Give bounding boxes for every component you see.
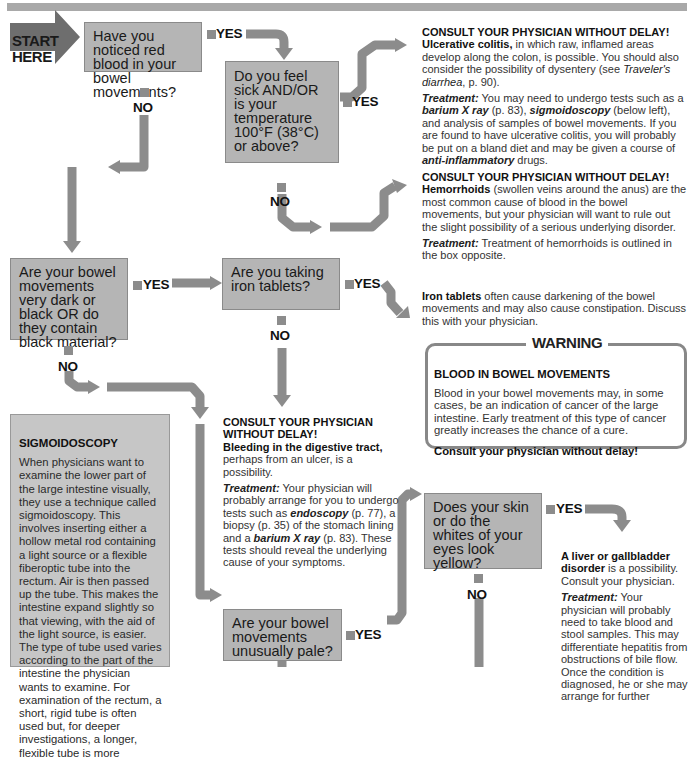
- outcome-heading: CONSULT YOUR PHYSICIAN WITHOUT DELAY!: [422, 171, 688, 183]
- condition-name: Ulcerative colitis,: [422, 38, 513, 50]
- start-here-label: START HERE: [12, 33, 58, 65]
- yes-marker-q5: [546, 505, 555, 514]
- treatment-label: Treatment:: [422, 237, 479, 249]
- treatment-label: Treatment:: [422, 92, 479, 104]
- arrowhead-q6-yes: [410, 487, 422, 501]
- outcome-liver-gallbladder: A liver or gallbladder disorder is a pos…: [561, 550, 689, 707]
- arrowhead-q3-yes: [210, 276, 222, 290]
- question-pale[interactable]: Are your bowel movements unusually pale?: [223, 609, 342, 661]
- treatment-text: (p. 83),: [489, 104, 530, 116]
- outcome-heading: CONSULT YOUR PHYSICIAN WITHOUT DELAY!: [422, 26, 688, 38]
- arrow-q2-no-right: [330, 186, 395, 227]
- yes-label-q1: YES: [216, 26, 242, 41]
- no-label-q1: NO: [133, 100, 153, 115]
- yes-label-q3: YES: [143, 277, 169, 292]
- yes-marker-q4: [345, 280, 354, 289]
- sidebar-body: When physicians want to examine the lowe…: [19, 456, 162, 758]
- question-pale-text: Are your bowel movements unusually pale?: [232, 615, 333, 659]
- reference-link-barium-x-ray[interactable]: barium X ray: [254, 532, 321, 544]
- arrow-q1-yes: [246, 34, 284, 48]
- arrow-q4-yes: [384, 283, 400, 313]
- arrow-q1-no: [120, 115, 144, 167]
- outcome-body-end: , p. 90).: [462, 76, 499, 88]
- yes-label-q5: YES: [556, 501, 582, 516]
- yes-label-q2: YES: [352, 94, 378, 109]
- yes-marker-q2: [343, 98, 352, 107]
- question-red-blood[interactable]: Have you noticed red blood in your bowel…: [84, 22, 202, 72]
- reference-link-anti-inflammatory[interactable]: anti-inflammatory: [422, 154, 514, 166]
- question-iron-tablets[interactable]: Are you taking iron tablets?: [222, 258, 340, 310]
- arrowhead-q2-yes: [395, 38, 407, 52]
- arrow-q2-yes: [340, 45, 395, 97]
- treatment-label: Treatment:: [561, 591, 618, 603]
- condition-name: Hemorrhoids: [422, 183, 490, 195]
- yes-marker-q1: [207, 30, 216, 39]
- question-skin-yellow-text: Does your skin or do the whites of your …: [433, 499, 529, 571]
- arrowhead-q4-no: [273, 395, 291, 407]
- condition-name: Bleeding in the digestive tract,: [223, 441, 383, 453]
- arrowhead-q2-no: [310, 220, 322, 234]
- question-feel-sick[interactable]: Do you feel sick AND/OR is your temperat…: [225, 61, 339, 163]
- arrowhead-q5-yes: [613, 520, 631, 532]
- arrow-q5-yes: [585, 509, 622, 520]
- warning-heading: BLOOD IN BOWEL MOVEMENTS: [434, 368, 610, 380]
- question-iron-tablets-text: Are you taking iron tablets?: [231, 264, 324, 294]
- arrowhead-q3-no-down: [210, 588, 222, 602]
- reference-link-sigmoidoscopy[interactable]: sigmoidoscopy: [530, 104, 611, 116]
- warning-footer: Consult your physician without delay!: [434, 445, 638, 457]
- reference-link-endoscopy[interactable]: endoscopy: [290, 507, 348, 519]
- question-feel-sick-text: Do you feel sick AND/OR is your temperat…: [234, 68, 319, 154]
- question-dark-black-text: Are your bowel movements very dark or bl…: [19, 264, 117, 350]
- question-red-blood-text: Have you noticed red blood in your bowel…: [93, 28, 176, 100]
- no-label-q5: NO: [467, 587, 487, 602]
- warning-body: Blood in your bowel movements may, in so…: [434, 387, 666, 437]
- arrowhead-q1-no-down: [63, 241, 81, 253]
- treatment-text: Your physician will probably need to tak…: [561, 591, 688, 702]
- outcome-iron-tablets: Iron tablets often cause darkening of th…: [422, 290, 688, 331]
- yes-marker-q3: [133, 281, 142, 290]
- outcome-ulcerative-colitis: CONSULT YOUR PHYSICIAN WITHOUT DELAY! Ul…: [422, 26, 688, 170]
- no-marker-q1: [140, 88, 149, 97]
- condition-name: Iron tablets: [422, 290, 481, 302]
- reference-link-barium-x-ray[interactable]: barium X ray: [422, 104, 489, 116]
- sidebar-title: SIGMOIDOSCOPY: [19, 437, 162, 450]
- no-marker-q4: [277, 316, 286, 325]
- yes-label-q4: YES: [354, 276, 380, 291]
- no-marker-q2: [277, 183, 286, 192]
- no-label-q2: NO: [270, 194, 290, 209]
- question-dark-black[interactable]: Are your bowel movements very dark or bl…: [10, 258, 128, 340]
- arrowhead-q1-yes: [275, 48, 293, 60]
- treatment-text: You may need to undergo tests such as a: [479, 92, 684, 104]
- no-marker-q3: [64, 346, 73, 355]
- no-label-q3: NO: [58, 359, 78, 374]
- warning-content: BLOOD IN BOWEL MOVEMENTS Blood in your b…: [434, 368, 680, 462]
- start-label-line1: START: [12, 33, 58, 49]
- outcome-body: perhaps from an ulcer, is a possibility.: [223, 453, 353, 477]
- outcome-heading: CONSULT YOUR PHYSICIAN WITHOUT DELAY!: [223, 416, 399, 441]
- no-label-q4: NO: [270, 328, 290, 343]
- yes-marker-q6: [346, 631, 355, 640]
- question-skin-yellow[interactable]: Does your skin or do the whites of your …: [424, 493, 542, 569]
- start-label-line2: HERE: [12, 49, 58, 65]
- arrow-q3-no-down: [200, 424, 210, 595]
- no-marker-q5: [474, 574, 483, 583]
- arrowhead-q1-no: [108, 160, 120, 174]
- treatment-label: Treatment:: [223, 482, 280, 494]
- outcome-hemorrhoids: CONSULT YOUR PHYSICIAN WITHOUT DELAY! He…: [422, 171, 688, 266]
- arrow-q3-no-right: [107, 387, 200, 407]
- warning-title: WARNING: [526, 334, 608, 351]
- outcome-bleeding: CONSULT YOUR PHYSICIAN WITHOUT DELAY! Bl…: [223, 416, 399, 573]
- treatment-text: drugs.: [514, 154, 548, 166]
- arrowhead-q3-no-right: [191, 407, 209, 419]
- arrowhead-q3-no: [88, 380, 100, 394]
- yes-label-q6: YES: [355, 627, 381, 642]
- sigmoidoscopy-sidebar: SIGMOIDOSCOPY When physicians want to ex…: [10, 414, 170, 667]
